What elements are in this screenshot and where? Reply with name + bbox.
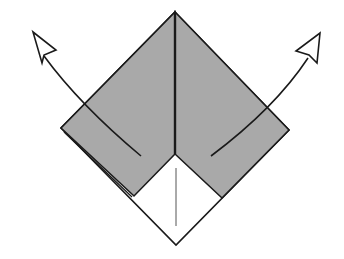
right-colored-flap: [175, 12, 289, 198]
origami-diagram: [0, 0, 344, 259]
left-colored-flap: [61, 12, 175, 196]
